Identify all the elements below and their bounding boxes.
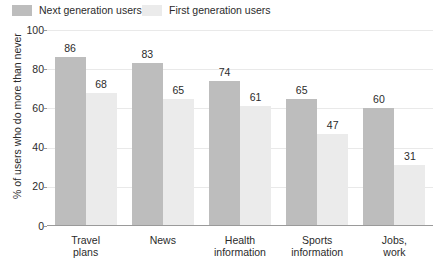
bar-value-label: 47 [317,120,348,131]
bar-chart: Next generation users First generation u… [0,0,433,267]
bar-first-generation [163,99,194,226]
bar-first-generation [317,134,348,226]
gridline [47,69,433,70]
legend-entry-first-generation-users: First generation users [142,2,271,18]
bar-first-generation [394,165,425,226]
x-axis-category-label: Travel plans [47,234,124,258]
bar-next-generation [363,108,394,226]
bar-value-label: 31 [394,151,425,162]
x-axis-category-label: News [124,234,201,246]
bar-value-label: 60 [363,94,394,105]
bar-next-generation [286,99,317,226]
bar-value-label: 61 [240,92,271,103]
x-axis-category-label: Health information [201,234,278,258]
bar-next-generation [55,57,86,226]
legend-swatch-first-generation-users [142,5,162,16]
bar-value-label: 74 [209,67,240,78]
x-axis-category-label: Jobs, work [356,234,433,258]
y-axis-tick-label: 20 [4,181,44,192]
x-axis-category-label: Sports information [279,234,356,258]
bar-value-label: 86 [55,43,86,54]
y-axis-tick-label: 0 [4,221,44,232]
bar-value-label: 65 [163,85,194,96]
legend-label-first-generation-users: First generation users [169,4,271,16]
bar-next-generation [132,63,163,226]
bar-first-generation [240,106,271,226]
bar-value-label: 65 [286,85,317,96]
bar-value-label: 68 [86,79,117,90]
y-axis-tick-label: 80 [4,64,44,75]
bar-next-generation [209,81,240,226]
gridline [47,30,433,31]
plot-area: 86688365746165476031 [47,30,433,226]
bar-first-generation [86,93,117,226]
y-axis-tick-label: 60 [4,103,44,114]
legend-label-next-generation-users: Next generation users [39,4,142,16]
bar-value-label: 83 [132,49,163,60]
y-axis-tick-label: 40 [4,142,44,153]
chart-legend: Next generation users First generation u… [0,0,433,22]
y-axis-tick-mark [44,226,47,227]
x-axis-line [47,225,433,226]
y-axis-tick-label: 100 [4,25,44,36]
y-axis: % of users who do more than never 020406… [0,0,44,267]
